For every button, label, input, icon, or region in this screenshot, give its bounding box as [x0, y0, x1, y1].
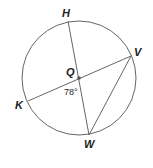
- label-w: W: [84, 138, 96, 150]
- angle-label: 78°: [64, 87, 78, 97]
- label-v: V: [134, 46, 143, 58]
- circle-diagram: H V K W Q 78°: [0, 0, 153, 168]
- center-point: [77, 76, 81, 80]
- circle-svg: H V K W Q 78°: [0, 0, 153, 168]
- chord-vw: [89, 56, 131, 135]
- label-h: H: [62, 7, 71, 19]
- label-k: K: [15, 99, 24, 111]
- label-q: Q: [66, 66, 75, 78]
